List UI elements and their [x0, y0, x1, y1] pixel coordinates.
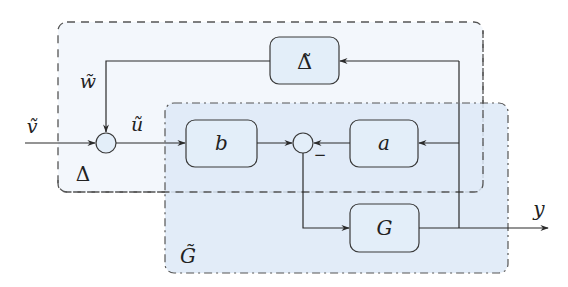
delta-tilde-label: Δ̃ — [297, 50, 312, 74]
sum-junction-1 — [96, 133, 116, 153]
minus-sign: − — [314, 146, 327, 164]
a-label: a — [378, 131, 390, 155]
u-tilde-label: ũ — [131, 113, 143, 135]
block-diagram: Δ̃ b a G − ṽ w̃ ũ y Δ G̃ — [0, 0, 568, 287]
g-label: G — [377, 216, 393, 240]
v-tilde-label: ṽ — [27, 115, 38, 137]
y-label: y — [532, 197, 545, 221]
sum-junction-2 — [293, 133, 313, 153]
w-tilde-label: w̃ — [80, 70, 96, 92]
b-label: b — [215, 131, 228, 155]
delta-group-label: Δ — [76, 162, 90, 186]
g-tilde-group-label: G̃ — [180, 244, 196, 268]
